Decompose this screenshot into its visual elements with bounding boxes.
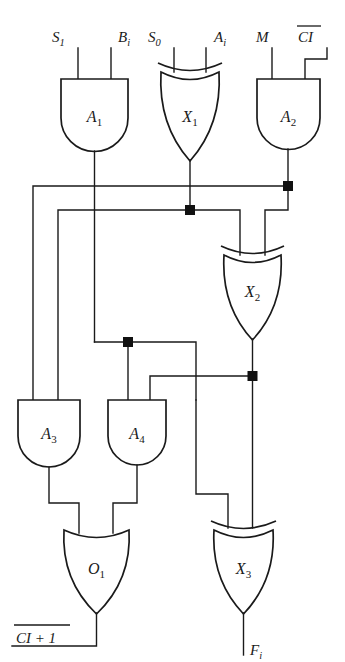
gate-X2-outer-arc — [221, 246, 284, 254]
junction-a2-output — [284, 182, 293, 191]
junction-a1-output — [124, 338, 133, 347]
gate-A1[interactable]: A1 — [61, 79, 128, 152]
output-label-Fi: Fi — [249, 642, 262, 661]
gate-X1-outer-arc — [158, 63, 222, 71]
or-input-routing — [49, 465, 137, 533]
input-wires — [78, 48, 327, 79]
gate-X3[interactable]: X3 — [211, 521, 276, 614]
wire-x2-to-a4 — [150, 376, 253, 400]
x3-left-input — [196, 400, 228, 528]
gate-A4[interactable]: A4 — [108, 400, 166, 465]
wire-ci-to-a2 — [305, 48, 327, 79]
wire-a1-junction-run — [95, 342, 197, 400]
gate-X1[interactable]: X1 — [158, 63, 222, 161]
input-label-S1: S1 — [52, 29, 65, 48]
input-label-S0: S0 — [148, 29, 162, 48]
gate-O1[interactable]: O1 — [64, 530, 129, 614]
wire-a3-to-o1 — [49, 467, 79, 533]
wire-a1net-to-x3 — [196, 400, 228, 528]
input-label-Ai: Ai — [213, 29, 226, 48]
wire-x1-to-a3 — [58, 210, 190, 400]
wire-a2-to-x2 — [265, 186, 288, 255]
logic-circuit-diagram: A1 X1 A2 X2 — [0, 0, 345, 662]
wire-x1-to-x2 — [190, 210, 240, 255]
junction-x1-output — [186, 206, 195, 215]
gate-X2[interactable]: X2 — [221, 246, 284, 340]
input-labels: S1 Bi S0 Ai M CI — [52, 26, 321, 48]
gate-A3[interactable]: A3 — [18, 400, 80, 467]
input-label-CI: CI — [298, 29, 314, 45]
wire-a4-to-o1 — [113, 465, 137, 533]
gate-X3-outer-arc — [211, 521, 276, 529]
gate-A2[interactable]: A2 — [257, 79, 320, 150]
circuit-canvas: A1 X1 A2 X2 — [0, 0, 345, 662]
input-label-Bi: Bi — [118, 29, 130, 48]
input-label-M: M — [255, 29, 270, 45]
output-label-CI-plus-1: CI + 1 — [16, 630, 56, 646]
output-labels: CI + 1 Fi — [14, 625, 262, 661]
junction-x2-output — [248, 372, 257, 381]
